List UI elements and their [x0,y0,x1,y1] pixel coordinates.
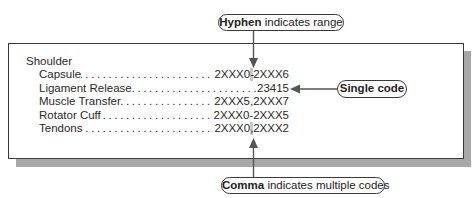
entry-code: 2XXX5,2XXX7 [213,95,289,108]
callout-single-code: Single code [337,80,407,98]
entry-label: Tendons [39,122,82,135]
entry-row-capsule: ........................................… [39,68,289,81]
entry-label: Muscle Transfer [39,95,121,108]
callout-hyphen: Hyphen indicates range [218,14,344,31]
entry-row-tendons: ........................................… [39,122,289,135]
entry-label: Rotator Cuff [39,109,101,122]
entry-code: 2XXX0,2XXX2 [213,122,289,135]
entry-label: Capsule [39,68,81,81]
entry-code: 2XXX0-2XXX6 [213,68,289,81]
index-heading: Shoulder [26,55,72,68]
entry-label: Ligament Release [39,82,132,95]
callout-comma: Comma indicates multiple codes [221,177,385,194]
entry-code: 2XXX0-2XXX5 [213,109,289,122]
entry-row-ligament-release: ........................................… [39,82,289,95]
single-code-highlight: 23415 [256,82,289,95]
entry-row-rotator-cuff: ........................................… [39,109,289,122]
entry-row-muscle-transfer: ........................................… [39,95,289,108]
